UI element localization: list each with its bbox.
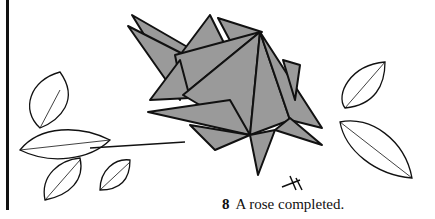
origami-rose: [128, 15, 322, 175]
figure-caption: 8A rose completed.: [222, 196, 344, 213]
thorn-mark: [282, 176, 302, 190]
right-leaves: [340, 62, 412, 178]
figure-caption-text: A rose completed.: [236, 196, 345, 212]
rose-illustration: [0, 0, 435, 219]
figure-number: 8: [222, 196, 230, 212]
